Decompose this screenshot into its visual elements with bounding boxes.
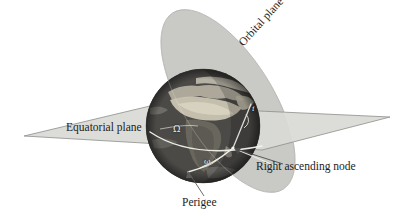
diagram-canvas [0,0,412,222]
label-perigee: Perigee [182,196,216,208]
symbol-argument-of-perigee-omega: ω [204,157,211,166]
earth-globe [146,69,260,183]
orbital-elements-diagram: Equatorial plane Orbital plane Right asc… [0,0,412,222]
label-equatorial-plane: Equatorial plane [66,121,142,133]
symbol-raan-omega: Ω [173,124,180,134]
label-right-ascending-node: Right ascending node [256,160,356,172]
symbol-inclination-i: i [252,104,255,113]
